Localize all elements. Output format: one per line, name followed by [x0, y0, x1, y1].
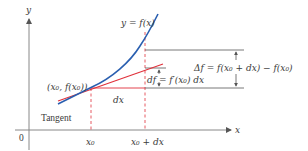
tangent-label: Tangent: [41, 113, 72, 123]
x-axis-label: x: [235, 125, 240, 135]
y-axis-label: y: [25, 5, 32, 15]
dx-segment-label: dx: [113, 95, 124, 105]
differential-diagram: y x 0 y = f(x) (x₀, f(x₀)) Tangent dx df…: [0, 0, 308, 151]
point-label: (x₀, f(x₀)): [47, 82, 88, 92]
x0-dx-tick-label: x₀ + dx: [131, 137, 164, 147]
origin-label: 0: [19, 133, 24, 143]
x0-tick-label: x₀: [86, 137, 95, 147]
curve-label: y = f(x): [120, 18, 155, 28]
delta-f-label: Δf = f(x₀ + dx) − f(x₀): [193, 63, 293, 73]
df-label: df = f′(x₀) dx: [147, 75, 204, 85]
